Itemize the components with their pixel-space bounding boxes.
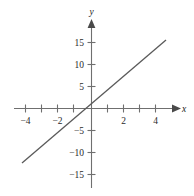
y-axis-arrow-icon (88, 19, 96, 28)
x-tick-label-4: 4 (153, 116, 158, 126)
x-tick-label-neg4: −4 (20, 116, 30, 126)
x-axis-arrow-icon (172, 105, 181, 113)
y-tick-label-neg5: −5 (74, 126, 84, 136)
line-graph-figure: −4 −2 2 4 15 10 5 −5 −10 −15 x y (0, 0, 194, 196)
x-tick-label-neg2: −2 (52, 116, 62, 126)
plot-area: −4 −2 2 4 15 10 5 −5 −10 −15 x y (0, 0, 194, 196)
x-axis-label: x (181, 104, 187, 114)
y-tick-label-neg10: −10 (69, 148, 84, 158)
x-tick-label-2: 2 (121, 116, 126, 126)
y-tick-label-15: 15 (75, 38, 85, 48)
y-tick-label-neg15: −15 (69, 170, 84, 180)
y-tick-label-10: 10 (75, 60, 85, 70)
y-axis-label: y (88, 7, 94, 17)
y-tick-label-5: 5 (79, 82, 84, 92)
plotted-line (22, 40, 166, 163)
